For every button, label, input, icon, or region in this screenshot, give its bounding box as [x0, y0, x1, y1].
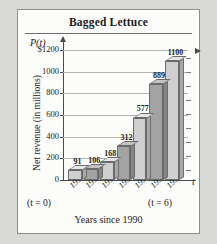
right-edge-tick [186, 72, 191, 73]
chart-panel: Bagged Lettuce Net revenue (in millions)… [17, 9, 200, 234]
y-tick-mark [60, 115, 63, 116]
bar-value-label: 106 [88, 156, 100, 165]
x-axis-symbol: t [192, 176, 195, 187]
page-background: Bagged Lettuce Net revenue (in millions)… [0, 0, 217, 244]
bar-face-side [146, 114, 151, 180]
right-edge-tick [186, 100, 191, 101]
bar-face-side [163, 81, 168, 180]
t-start-note: (t = 0) [27, 198, 51, 208]
bar-1990 [68, 170, 82, 180]
y-tick-label: 600 [46, 109, 59, 119]
bar-face-side [130, 143, 135, 180]
y-tick-mark [60, 72, 63, 73]
y-tick-label: 200 [46, 152, 59, 162]
bar-face-side [114, 159, 119, 180]
y-axis-arrow-icon [60, 36, 66, 42]
chart-title: Bagged Lettuce [18, 16, 199, 28]
bar-value-label: 168 [104, 149, 116, 158]
x-axis-label: Years since 1990 [18, 214, 199, 225]
y-axis-label: Net revenue (in millions) [32, 58, 42, 188]
t-end-note: (t = 6) [148, 198, 172, 208]
y-tick-label: 400 [46, 131, 59, 141]
bar-face-front [149, 84, 163, 180]
title-divider [25, 33, 192, 34]
bar-value-label: 889 [153, 71, 165, 80]
y-tick-mark [60, 93, 63, 94]
bar-value-label: 91 [74, 157, 82, 166]
bar-1995 [149, 84, 163, 180]
right-edge-tick [186, 128, 191, 129]
right-edge-tick [186, 86, 191, 87]
bar-value-label: 1100 [168, 48, 184, 57]
bar-value-label: 577 [137, 104, 149, 113]
bar-face-side [179, 58, 184, 180]
y-tick-mark [60, 137, 63, 138]
x-axis-arrow-icon [195, 48, 201, 54]
right-edge-tick [186, 114, 191, 115]
y-tick-label: 1000 [42, 66, 59, 76]
y-tick-mark [60, 180, 63, 181]
right-edge-tick [186, 58, 191, 59]
bar-value-label: 312 [121, 133, 133, 142]
y-tick-label: $1200 [38, 44, 59, 54]
y-tick-label: 800 [46, 87, 59, 97]
right-edge-tick [186, 142, 191, 143]
y-tick-mark [60, 158, 63, 159]
right-edge-tick [186, 156, 191, 157]
bar-face-front [68, 170, 82, 180]
y-tick-label: 0 [55, 174, 59, 184]
y-tick-mark [60, 50, 63, 51]
plot-area: 02004006008001000$1200911990106199116819… [63, 50, 188, 180]
right-edge-tick [186, 170, 191, 171]
